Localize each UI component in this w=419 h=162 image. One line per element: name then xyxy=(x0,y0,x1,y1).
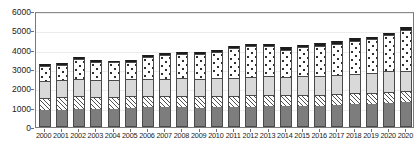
bar-segment-segment-4-dotted xyxy=(194,54,206,79)
bar-segment-segment-4-dotted xyxy=(366,39,378,73)
bar-segment-segment-4-dotted xyxy=(263,46,275,76)
x-axis-tick-label: 2009 xyxy=(190,132,207,139)
bar-segment-segment-3-light-gray xyxy=(314,76,326,95)
bar xyxy=(383,33,395,128)
x-axis-tick-mark xyxy=(164,129,165,132)
bar-segment-segment-4-dotted xyxy=(108,62,120,79)
bar-segment-segment-1-dark-gray xyxy=(280,106,292,127)
bar-segment-segment-1-dark-gray xyxy=(366,104,378,127)
bar-segment-segment-1-dark-gray xyxy=(176,107,188,127)
bar-segment-segment-4-dotted xyxy=(400,30,412,71)
bar xyxy=(159,53,171,127)
bar-segment-segment-3-light-gray xyxy=(194,79,206,96)
x-axis-tick-mark xyxy=(388,129,389,132)
x-axis-tick-label: 2003 xyxy=(87,132,104,139)
bar xyxy=(39,64,51,127)
bar-segment-segment-4-dotted xyxy=(383,35,395,71)
bar xyxy=(297,45,309,127)
bar-segment-segment-1-dark-gray xyxy=(194,108,206,127)
bar-segment-segment-4-dotted xyxy=(297,47,309,76)
x-axis-tick-label: 2017 xyxy=(328,132,345,139)
x-axis-tick-mark xyxy=(405,129,406,132)
bar-segment-segment-1-dark-gray xyxy=(400,102,412,127)
x-axis-tick-mark xyxy=(44,129,45,132)
x-axis-tick-label: 2019 xyxy=(362,132,379,139)
bar-segment-segment-4-dotted xyxy=(176,54,188,78)
bar-segment-segment-3-light-gray xyxy=(211,78,223,96)
bar-segment-segment-2-hatched xyxy=(383,92,395,103)
bar-segment-segment-1-dark-gray xyxy=(90,109,102,127)
bar-segment-segment-3-light-gray xyxy=(383,71,395,91)
bar-segment-segment-2-hatched xyxy=(366,93,378,104)
bar-segment-segment-3-light-gray xyxy=(263,76,275,94)
x-axis-tick-label: 2008 xyxy=(173,132,190,139)
bar-segment-segment-1-dark-gray xyxy=(125,108,137,127)
x-axis-tick-label: 2014 xyxy=(276,132,293,139)
x-axis-tick-mark xyxy=(233,129,234,132)
x-axis-tick-mark xyxy=(302,129,303,132)
bar xyxy=(108,61,120,127)
bar-segment-segment-4-dotted xyxy=(245,46,257,77)
bar-segment-segment-4-dotted xyxy=(125,62,137,80)
x-axis-tick-label: 2001 xyxy=(52,132,69,139)
plot-area xyxy=(35,12,414,128)
bar xyxy=(90,60,102,127)
bar-segment-segment-3-light-gray xyxy=(366,73,378,93)
bar-segment-segment-2-hatched xyxy=(228,96,240,107)
bar-segment-segment-2-hatched xyxy=(400,91,412,102)
bar-segment-segment-3-light-gray xyxy=(245,77,257,95)
y-axis-tick-mark xyxy=(31,51,34,52)
x-axis-tick-mark xyxy=(371,129,372,132)
x-axis-tick-label: 2011 xyxy=(225,132,242,139)
bar-segment-segment-3-light-gray xyxy=(56,80,68,97)
bar-segment-segment-3-light-gray xyxy=(108,80,120,97)
x-axis-tick-label: 2013 xyxy=(259,132,276,139)
bar xyxy=(263,44,275,127)
x-axis-tick-mark xyxy=(216,129,217,132)
bar-segment-segment-1-dark-gray xyxy=(263,106,275,127)
bar-segment-segment-2-hatched xyxy=(108,97,120,109)
x-axis-tick-mark xyxy=(354,129,355,132)
bar xyxy=(366,37,378,127)
bar xyxy=(73,57,85,127)
x-axis-tick-mark xyxy=(319,129,320,132)
bar-segment-segment-2-hatched xyxy=(39,98,51,110)
bar-segment-segment-1-dark-gray xyxy=(228,107,240,127)
x-axis-tick-mark xyxy=(61,129,62,132)
y-axis-tick-mark xyxy=(31,31,34,32)
x-axis-tick-mark xyxy=(147,129,148,132)
bar-segment-segment-2-hatched xyxy=(194,96,206,107)
bar-segment-segment-1-dark-gray xyxy=(297,106,309,127)
bar-segment-segment-3-light-gray xyxy=(73,79,85,96)
y-axis-tick-label: 6000 xyxy=(12,8,31,17)
bar-segment-segment-2-hatched xyxy=(176,96,188,108)
y-axis-tick-mark xyxy=(31,12,34,13)
bar-segment-segment-1-dark-gray xyxy=(211,107,223,127)
bar-segment-segment-1-dark-gray xyxy=(383,103,395,127)
bar-segment-segment-2-hatched xyxy=(90,97,102,109)
bar-segment-segment-4-dotted xyxy=(331,44,343,75)
x-axis-tick-label: 2010 xyxy=(207,132,224,139)
bar-segment-segment-3-light-gray xyxy=(280,77,292,95)
bar-segment-segment-4-dotted xyxy=(56,65,68,80)
y-axis-tick-label: 1000 xyxy=(12,105,31,114)
bar-segment-segment-3-light-gray xyxy=(400,71,412,92)
bar xyxy=(331,41,343,127)
bar-segment-segment-2-hatched xyxy=(280,95,292,106)
bar-segment-segment-4-dotted xyxy=(142,57,154,78)
bar-segment-segment-4-dotted xyxy=(90,62,102,79)
x-axis-tick-label: 2002 xyxy=(69,132,86,139)
bar-segment-segment-2-hatched xyxy=(142,96,154,108)
stacked-bar-chart: 0100020003000400050006000 20002001200220… xyxy=(0,0,419,162)
bar-segment-segment-3-light-gray xyxy=(228,78,240,96)
bar-segment-segment-2-hatched xyxy=(73,96,85,108)
bar xyxy=(176,52,188,127)
bar-segment-segment-3-light-gray xyxy=(297,76,309,95)
x-axis-tick-label: 2004 xyxy=(104,132,121,139)
bar xyxy=(400,27,412,127)
bar xyxy=(280,47,292,127)
x-axis-tick-mark xyxy=(268,129,269,132)
bar-segment-segment-3-light-gray xyxy=(349,74,361,93)
bar-segment-segment-3-light-gray xyxy=(331,75,343,94)
bar-segment-segment-4-dotted xyxy=(349,41,361,74)
